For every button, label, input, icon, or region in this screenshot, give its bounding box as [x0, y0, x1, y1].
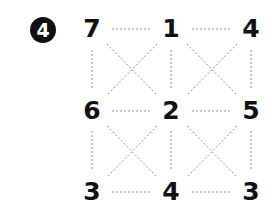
- grid-cell-r1c1: 7: [77, 14, 107, 44]
- grid-cell-r3c1: 3: [77, 177, 107, 207]
- grid-cell-r1c3: 4: [236, 14, 266, 44]
- grid-cell-r2c3: 5: [236, 96, 266, 126]
- grid-cell-r1c2: 1: [156, 14, 186, 44]
- grid-cell-r3c2: 4: [156, 177, 186, 207]
- dotted-connector-lines: [0, 0, 275, 217]
- grid-cell-r3c3: 3: [236, 177, 266, 207]
- grid-cell-r2c1: 6: [77, 96, 107, 126]
- grid-cell-r2c2: 2: [156, 96, 186, 126]
